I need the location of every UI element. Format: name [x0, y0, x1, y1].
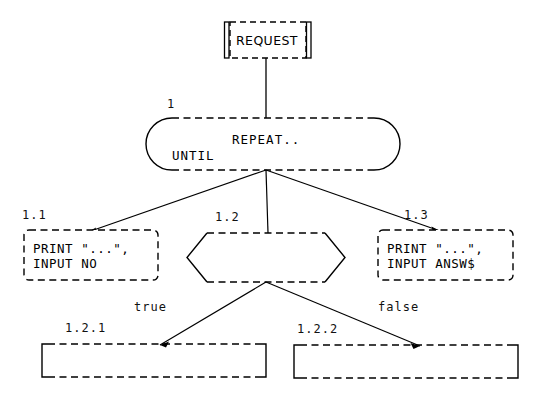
- node-1-2-right-point: [325, 233, 345, 282]
- loop-repeat-label: REPEAT..: [232, 132, 300, 147]
- node-1-2-2-right-edge: [512, 345, 518, 378]
- request-left-bar: [225, 22, 230, 58]
- node-1-2-2[interactable]: [294, 345, 518, 378]
- loop-right-cap: [374, 118, 400, 170]
- edge-label-true: true: [134, 300, 167, 314]
- ref-label-1-2: 1.2: [215, 211, 240, 224]
- edge-label-false: false: [378, 300, 419, 314]
- node-1-3-line-2: INPUT ANSW$: [387, 256, 475, 271]
- ref-label-1-2-2: 1.2.2: [297, 323, 338, 336]
- edge-loop-to-12: [266, 170, 268, 233]
- loop-left-cap: [146, 118, 172, 170]
- ref-label-1: 1: [167, 98, 175, 111]
- node-1-2-1[interactable]: [42, 344, 266, 377]
- node-1-2-2-left-edge: [294, 345, 300, 378]
- node-1-2-left-point: [187, 233, 207, 282]
- edge-group-loop-children: [88, 170, 440, 235]
- edge-12-to-121: [160, 282, 266, 345]
- ref-label-1-2-1: 1.2.1: [65, 322, 106, 335]
- node-1-1-line-1: PRINT "...",: [33, 241, 129, 256]
- node-1-2-1-left-edge: [42, 344, 48, 377]
- node-1-1-line-2: INPUT NO: [33, 256, 97, 271]
- node-1-2[interactable]: [187, 233, 345, 282]
- edge-group-decision-children: [160, 282, 420, 349]
- request-right-bar: [307, 22, 312, 58]
- request-label: REQUEST: [236, 33, 298, 48]
- edge-12-to-122: [266, 282, 420, 346]
- node-1-3-line-1: PRINT "...",: [387, 241, 483, 256]
- ref-label-1-1: 1.1: [22, 209, 47, 222]
- node-1-2-1-right-edge: [260, 344, 266, 377]
- diagram-canvas: [0, 0, 556, 404]
- ref-label-1-3: 1.3: [404, 209, 429, 222]
- loop-until-label: UNTIL: [172, 148, 215, 163]
